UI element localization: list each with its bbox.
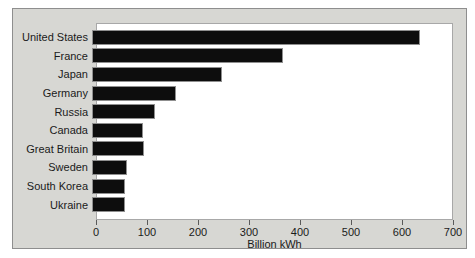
category-label: Canada	[13, 124, 92, 136]
x-tick-label: 0	[76, 226, 116, 238]
category-label: South Korea	[13, 180, 92, 192]
bar	[92, 123, 143, 138]
bar	[92, 30, 420, 45]
bar-row: Japan	[13, 65, 453, 84]
category-label: Japan	[13, 68, 92, 80]
x-tick-mark	[300, 220, 301, 225]
bar-row: South Korea	[13, 177, 453, 196]
category-label: Germany	[13, 87, 92, 99]
x-tick-label: 600	[382, 226, 422, 238]
bar-row: Russia	[13, 102, 453, 121]
category-label: Great Britain	[13, 143, 92, 155]
x-axis-title: Billion kWh	[96, 238, 453, 250]
x-tick-label: 200	[178, 226, 218, 238]
bar	[92, 160, 127, 175]
x-tick-label: 500	[331, 226, 371, 238]
bar-row: Ukraine	[13, 195, 453, 214]
bar-row: Sweden	[13, 158, 453, 177]
x-tick-mark	[249, 220, 250, 225]
bar-row: Great Britain	[13, 140, 453, 159]
category-label: Ukraine	[13, 199, 92, 211]
x-tick-mark	[402, 220, 403, 225]
bar	[92, 141, 144, 156]
x-tick-mark	[96, 220, 97, 225]
bar-row: United States	[13, 28, 453, 47]
category-label: Sweden	[13, 161, 92, 173]
x-tick-mark	[351, 220, 352, 225]
bar	[92, 197, 125, 212]
bar-row: Canada	[13, 121, 453, 140]
x-tick-mark	[198, 220, 199, 225]
chart-figure: United StatesFranceJapanGermanyRussiaCan…	[0, 0, 475, 258]
category-label: Russia	[13, 106, 92, 118]
bar-row: France	[13, 47, 453, 66]
bar	[92, 179, 125, 194]
bar	[92, 67, 222, 82]
x-tick-label: 400	[280, 226, 320, 238]
chart-panel: United StatesFranceJapanGermanyRussiaCan…	[12, 8, 467, 249]
category-label: France	[13, 50, 92, 62]
x-tick-label: 700	[433, 226, 473, 238]
x-tick-mark	[453, 220, 454, 225]
x-tick-label: 300	[229, 226, 269, 238]
bar	[92, 86, 176, 101]
bar-row: Germany	[13, 84, 453, 103]
x-tick-mark	[147, 220, 148, 225]
bar	[92, 104, 155, 119]
category-label: United States	[13, 31, 92, 43]
bar	[92, 48, 283, 63]
x-tick-label: 100	[127, 226, 167, 238]
bar-rows: United StatesFranceJapanGermanyRussiaCan…	[13, 23, 453, 220]
